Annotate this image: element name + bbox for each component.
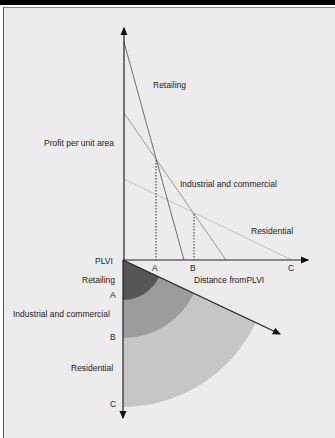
curve-label-retailing: Retailing [153, 80, 186, 90]
ring-label-residential: Residential [71, 363, 113, 373]
ring-label-retailing: Retailing [82, 275, 115, 285]
boundary-label-C: C [110, 399, 116, 409]
origin-label: PLVI [95, 256, 113, 266]
ring-label-industrial: Industrial and commercial [13, 309, 110, 319]
x-tick-A: A [152, 263, 158, 273]
x-tick-B: B [190, 263, 196, 273]
curve-label-industrial: Industrial and commercial [180, 179, 277, 189]
x-tick-C: C [288, 263, 294, 273]
y-axis-label: Profit per unit area [44, 138, 114, 148]
boundary-label-A: A [110, 290, 116, 300]
boundary-label-B: B [110, 332, 116, 342]
curve-label-residential: Residential [251, 226, 293, 236]
x-axis-label: Distance fromPLVI [194, 275, 264, 285]
